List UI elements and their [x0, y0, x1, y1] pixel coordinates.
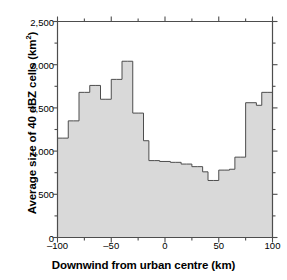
histogram-series	[58, 61, 273, 237]
histogram-fill	[58, 61, 273, 237]
plot-area	[0, 0, 287, 280]
chart-figure: Average size of 40 dBZ cells (km2) 05001…	[0, 0, 287, 280]
